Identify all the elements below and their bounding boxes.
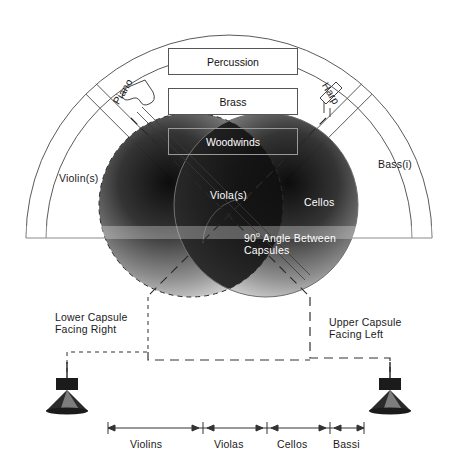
lower-capsule-line1: Lower Capsule [55,311,128,323]
lower-capsule-callout: Lower Capsule Facing Right [55,311,128,335]
section-box-woodwinds: Woodwinds [168,128,298,155]
string-label-violins: Violin(s) [59,172,99,184]
mic-left-group [46,362,88,414]
scale-label-cellos: Cellos [277,438,307,450]
string-label-bassi: Bass(i) [378,158,412,170]
string-label-violas: Viola(s) [210,189,247,201]
upper-capsule-line1: Upper Capsule [329,316,402,328]
width-scale-ruler [108,422,364,434]
mic-right-group [369,362,411,414]
string-label-cellos: Cellos [304,196,334,208]
section-box-percussion: Percussion [168,48,298,75]
diagram-canvas: Percussion Brass Woodwinds Piano Harp Vi… [0,0,458,465]
section-label-percussion: Percussion [207,56,259,68]
scale-label-violins: Violins [130,438,162,450]
section-label-brass: Brass [220,96,247,108]
section-box-brass: Brass [168,88,298,115]
angle-text: Angle Between [260,232,336,244]
upper-capsule-line2: Facing Left [329,328,383,340]
angle-value: 90 [244,232,256,244]
lower-capsule-line2: Facing Right [55,323,116,335]
capsule-angle-annotation: 90o Angle Between Capsules [244,229,336,256]
upper-capsule-callout: Upper Capsule Facing Left [329,316,402,340]
scale-label-violas: Violas [214,438,244,450]
angle-text-line2: Capsules [244,244,289,256]
scale-label-bassi: Bassi [333,438,360,450]
section-label-woodwinds: Woodwinds [206,136,260,148]
